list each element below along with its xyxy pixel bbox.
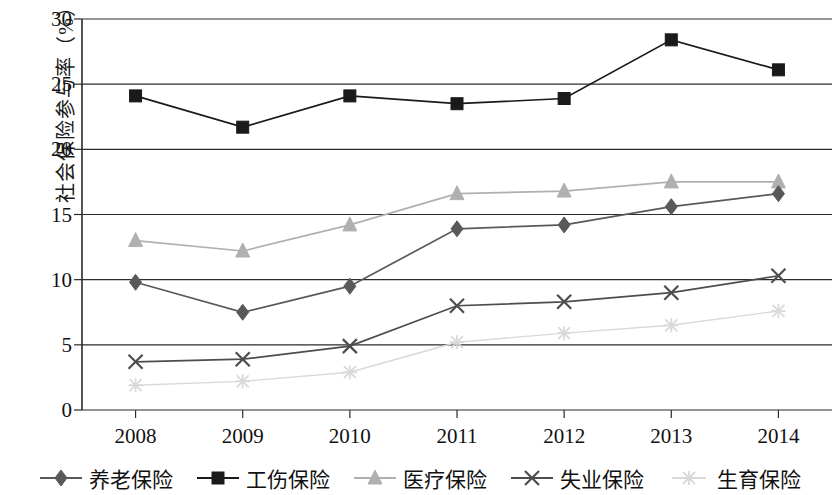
y-axis-tick-label: 15	[30, 202, 72, 227]
series-工伤保险	[130, 34, 785, 133]
marker-diamond	[237, 304, 249, 320]
legend-marker-square-icon	[195, 469, 241, 487]
marker-square	[130, 90, 142, 102]
marker-diamond	[130, 274, 142, 290]
legend-label: 养老保险	[89, 463, 173, 493]
legend-label: 医疗保险	[403, 463, 487, 493]
marker-diamond	[558, 217, 570, 233]
x-axis-tick-label: 2011	[436, 424, 477, 449]
series-失业保险	[129, 269, 786, 369]
marker-star	[771, 304, 785, 318]
series-line	[136, 194, 779, 313]
legend-item-失业保险[interactable]: 失业保险	[509, 463, 644, 493]
legend-marker-x-icon	[509, 469, 555, 487]
marker-star	[450, 335, 464, 349]
legend-item-医疗保险[interactable]: 医疗保险	[352, 463, 487, 493]
legend-item-生育保险[interactable]: 生育保险	[666, 463, 801, 493]
marker-diamond	[451, 221, 463, 237]
legend-marker-triangle-icon	[352, 469, 398, 487]
marker-triangle	[129, 233, 143, 247]
marker-square	[237, 121, 249, 133]
marker-star	[682, 471, 696, 485]
series-医疗保险	[129, 174, 786, 257]
marker-square	[558, 93, 570, 105]
marker-square	[665, 34, 677, 46]
series-line	[136, 40, 779, 127]
marker-square	[772, 64, 784, 76]
legend-item-工伤保险[interactable]: 工伤保险	[195, 463, 330, 493]
chart-legend: 养老保险工伤保险医疗保险失业保险生育保险	[0, 463, 838, 493]
y-axis-tick-label: 25	[30, 72, 72, 97]
plot-area	[0, 0, 838, 495]
legend-marker-diamond-icon	[38, 469, 84, 487]
marker-triangle	[664, 174, 678, 188]
marker-star	[343, 365, 357, 379]
marker-square	[212, 472, 224, 484]
legend-item-养老保险[interactable]: 养老保险	[38, 463, 173, 493]
series-养老保险	[130, 186, 785, 321]
marker-star	[557, 326, 571, 340]
marker-star	[236, 374, 250, 388]
marker-diamond	[55, 470, 67, 486]
marker-star	[129, 378, 143, 392]
marker-square	[451, 98, 463, 110]
x-axis-tick-label: 2009	[222, 424, 264, 449]
marker-diamond	[344, 278, 356, 294]
y-axis-tick-label: 0	[30, 398, 72, 423]
series-生育保险	[129, 304, 786, 392]
y-axis-tick-label: 20	[30, 137, 72, 162]
x-axis-tick-label: 2014	[757, 424, 799, 449]
y-axis-tick-label: 10	[30, 267, 72, 292]
legend-label: 失业保险	[560, 463, 644, 493]
legend-label: 工伤保险	[246, 463, 330, 493]
marker-square	[344, 90, 356, 102]
legend-marker-star-icon	[666, 469, 712, 487]
marker-star	[664, 318, 678, 332]
marker-triangle	[450, 186, 464, 200]
y-axis-tick-label: 5	[30, 332, 72, 357]
legend-label: 生育保险	[717, 463, 801, 493]
x-axis-tick-label: 2008	[115, 424, 157, 449]
x-axis-tick-label: 2012	[543, 424, 585, 449]
y-axis-tick-label: 30	[30, 7, 72, 32]
marker-diamond	[665, 199, 677, 215]
x-axis-tick-label: 2010	[329, 424, 371, 449]
x-axis-tick-label: 2013	[650, 424, 692, 449]
chart-container: 社会保险参与率（%） 051015202530 2008200920102011…	[0, 0, 838, 495]
